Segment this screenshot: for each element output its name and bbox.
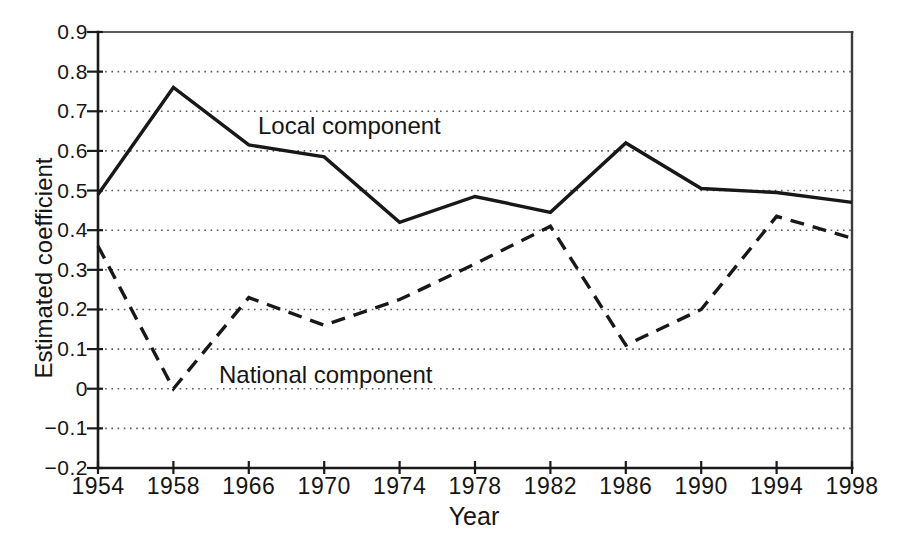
x-tick-label: 1990 xyxy=(675,474,728,498)
x-tick-label: 1958 xyxy=(147,474,200,498)
x-tick-label: 1974 xyxy=(373,474,426,498)
national-component-line xyxy=(98,216,852,388)
local-component-label: Local component xyxy=(258,113,441,139)
x-tick-label: 1994 xyxy=(750,474,803,498)
local-component-line xyxy=(98,87,852,222)
y-tick-label: −0.1 xyxy=(30,417,88,439)
x-tick-label: 1966 xyxy=(222,474,275,498)
coefficient-time-series-chart: 0.90.80.70.60.50.40.30.20.10−0.1−0.2 195… xyxy=(0,0,904,553)
y-tick-label: 0 xyxy=(30,378,88,400)
y-tick-label: 0.7 xyxy=(30,100,88,122)
x-tick-label: 1970 xyxy=(298,474,351,498)
x-tick-label: 1978 xyxy=(448,474,501,498)
line-chart-canvas xyxy=(0,0,904,553)
x-tick-label: 1998 xyxy=(825,474,878,498)
y-tick-label: 0.8 xyxy=(30,61,88,83)
y-tick-label: 0.9 xyxy=(30,21,88,43)
x-axis-title: Year xyxy=(449,502,500,531)
national-component-label: National component xyxy=(219,362,432,388)
x-tick-label: 1954 xyxy=(71,474,124,498)
x-tick-label: 1986 xyxy=(599,474,652,498)
x-tick-label: 1982 xyxy=(524,474,577,498)
y-axis-title: Estimated coefficient xyxy=(30,157,58,378)
